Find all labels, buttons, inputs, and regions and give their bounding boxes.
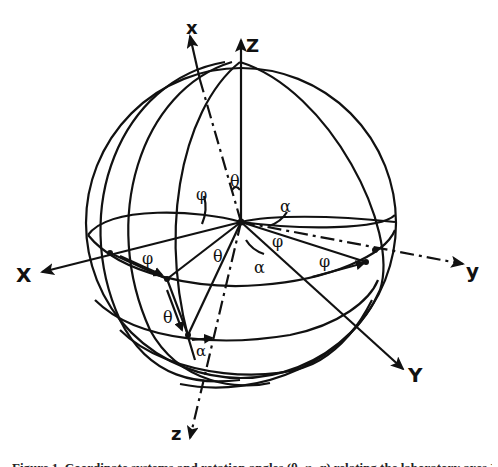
angle-alpha-center: α: [254, 258, 265, 277]
label-z: z: [171, 423, 181, 444]
angle-phi-left: φ: [196, 185, 207, 204]
chord-X-point: [110, 253, 167, 279]
label-Z: Z: [246, 35, 259, 56]
radius-to-point-b: [188, 222, 241, 335]
sphere-diagram: x Z X y Y z θ φ α φ θ α φ φ θ α: [0, 0, 498, 467]
angle-alpha-bottom: α: [196, 342, 206, 360]
angle-phi-right-arrow: φ: [319, 252, 330, 271]
angle-theta-lower: θ: [163, 308, 173, 327]
axis-x-outside: [190, 36, 200, 80]
figure-caption: Figure 1. Coordinate systems and rotatio…: [12, 458, 492, 467]
angle-alpha-right: α: [280, 197, 291, 216]
alpha-hook-center: [246, 240, 264, 254]
phi-arrow-left: [120, 256, 162, 275]
angle-theta-center: θ: [213, 247, 223, 266]
label-Y: Y: [407, 363, 423, 387]
angle-theta-top: θ: [230, 172, 240, 191]
meridian-left-1: [100, 62, 240, 381]
inner-equator-back: [241, 217, 395, 222]
lower-latitude: [95, 280, 378, 340]
label-x: x: [186, 17, 198, 38]
label-X: X: [16, 263, 32, 287]
label-y: y: [466, 259, 479, 283]
angle-phi-equator-right: φ: [272, 232, 283, 251]
lower-circle-2: [120, 300, 372, 375]
angle-phi-equator-left: φ: [142, 249, 153, 268]
